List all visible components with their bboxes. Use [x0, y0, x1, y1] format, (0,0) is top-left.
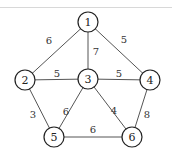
edge-weight-3-4: 5 [116, 68, 122, 79]
edge-weight-1-4: 5 [121, 34, 127, 45]
node-label: 4 [147, 74, 154, 87]
edge-weight-1-2: 6 [46, 35, 52, 46]
node-6: 6 [122, 127, 142, 147]
edge-weight-5-6: 6 [90, 124, 96, 135]
node-label: 5 [51, 131, 58, 144]
node-label: 3 [85, 73, 92, 86]
node-label: 2 [22, 74, 29, 87]
node-3: 3 [78, 69, 98, 89]
node-label: 6 [129, 131, 136, 144]
node-5: 5 [44, 127, 64, 147]
node-1: 1 [78, 12, 98, 32]
edge-weight-1-3: 7 [93, 46, 99, 57]
edge-weight-2-5: 3 [30, 109, 36, 120]
node-2: 2 [15, 70, 35, 90]
edge-weight-3-5: 6 [63, 106, 69, 117]
edge-weight-4-6: 8 [144, 109, 150, 120]
graph-diagram: 6755536486 123456 [0, 0, 172, 162]
edge-weight-3-6: 4 [111, 105, 117, 116]
node-4: 4 [140, 70, 160, 90]
node-label: 1 [85, 16, 92, 29]
edge-weight-2-3: 5 [54, 68, 60, 79]
